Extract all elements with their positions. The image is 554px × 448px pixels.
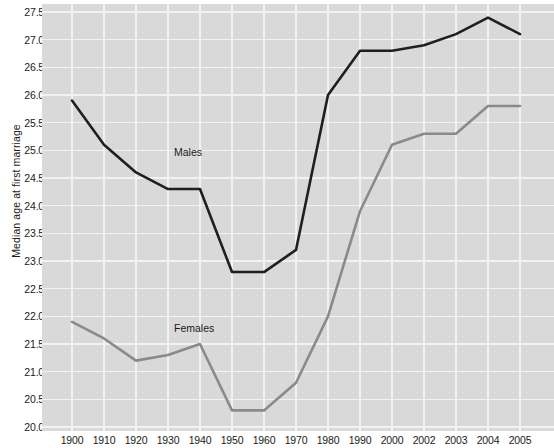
x-axis-tick-label: 1900 — [61, 434, 84, 446]
chart-container: Median age at first marriage 27.527.026.… — [0, 0, 554, 448]
series-line-females — [72, 106, 520, 410]
series-lines — [42, 4, 554, 431]
x-axis-tick-label: 1930 — [157, 434, 180, 446]
x-axis-tick-labels: 1900191019201930194019501960197019801990… — [0, 431, 554, 448]
x-axis-tick-label: 1970 — [285, 434, 308, 446]
x-axis-tick-label: 2005 — [509, 434, 532, 446]
x-axis-tick-label: 2002 — [413, 434, 436, 446]
x-axis-tick-label: 1940 — [189, 434, 212, 446]
x-axis-tick-label: 1960 — [253, 434, 276, 446]
x-axis-tick-label: 1920 — [125, 434, 148, 446]
x-axis-tick-label: 1990 — [349, 434, 372, 446]
x-axis-tick-label: 1950 — [221, 434, 244, 446]
series-line-males — [72, 18, 520, 273]
x-axis-tick-label: 2000 — [381, 434, 404, 446]
x-axis-tick-label: 2004 — [477, 434, 500, 446]
series-label-females: Females — [174, 322, 214, 334]
x-axis-tick-label: 1910 — [93, 434, 116, 446]
series-label-males: Males — [174, 146, 202, 158]
y-axis-tick-labels: 27.527.026.526.025.525.024.524.023.523.0… — [16, 0, 44, 448]
plot-area — [42, 4, 554, 431]
x-axis-tick-label: 2003 — [445, 434, 468, 446]
x-axis-tick-label: 1980 — [317, 434, 340, 446]
